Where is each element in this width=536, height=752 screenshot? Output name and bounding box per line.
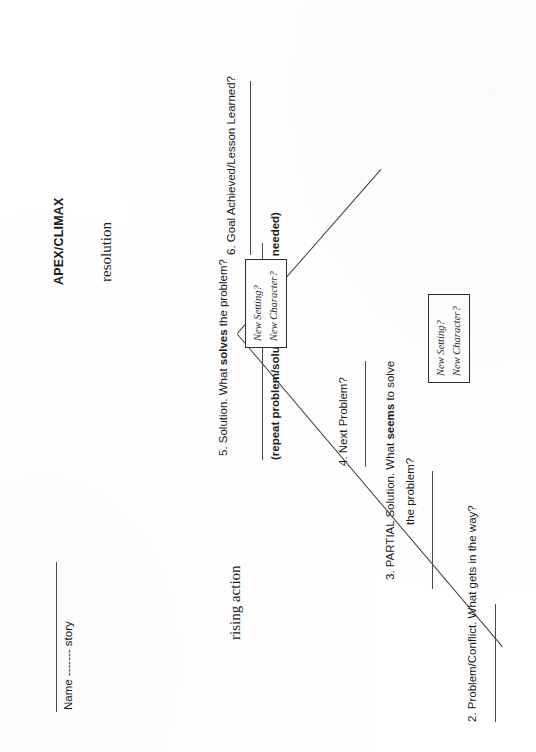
step-6-text: 6. Goal Achieved/Lesson Learned?: [225, 76, 237, 255]
worksheet-canvas: Name ------- story rising action APEX/CL…: [0, 0, 536, 752]
resolution-label: resolution: [98, 222, 115, 282]
step-3-line-1: 3. PARTIAL Solution. What seems to solve: [384, 361, 396, 580]
step-5-text-a: 5. Solution. What: [217, 365, 229, 456]
step-3-bold-word: seems: [384, 404, 396, 440]
name-underline: [56, 562, 57, 712]
step-4-underline: [365, 361, 366, 467]
tag-box-upper-line-1: New Setting?: [250, 266, 266, 341]
tag-box-lower-line-2: New Character?: [449, 301, 465, 376]
step-2-underline: [495, 604, 496, 722]
rising-action-label: rising action: [227, 565, 244, 640]
tag-box-lower: New Setting? New Character?: [428, 294, 470, 383]
step-3-underline: [432, 471, 433, 589]
step-2-label: 2. Problem/Conflict. What gets in the wa…: [466, 505, 478, 722]
name-label: Name ------- story: [62, 621, 74, 710]
step-3-text-b: to solve: [384, 361, 396, 404]
step-2-text: 2. Problem/Conflict. What gets in the wa…: [466, 505, 478, 722]
tag-box-upper-line-2: New Character?: [266, 266, 282, 341]
step-5-text-b: the problem?: [217, 259, 229, 329]
scanned-page: Name ------- story rising action APEX/CL…: [0, 0, 536, 752]
step-5-text: 5. Solution. What solves the problem?: [217, 259, 229, 456]
step-3-text-a: 3. PARTIAL Solution. What: [384, 440, 396, 580]
step-6-underline: [250, 81, 251, 255]
step-5-bold-word: solves: [217, 329, 229, 365]
apex-climax-label: APEX/CLIMAX: [52, 197, 66, 285]
tag-box-upper: New Setting? New Character?: [245, 259, 287, 348]
step-3-line-2: the problem?: [404, 458, 416, 525]
step-4-text: 4. Next Problem?: [337, 377, 349, 466]
tag-box-lower-line-1: New Setting?: [433, 301, 449, 376]
